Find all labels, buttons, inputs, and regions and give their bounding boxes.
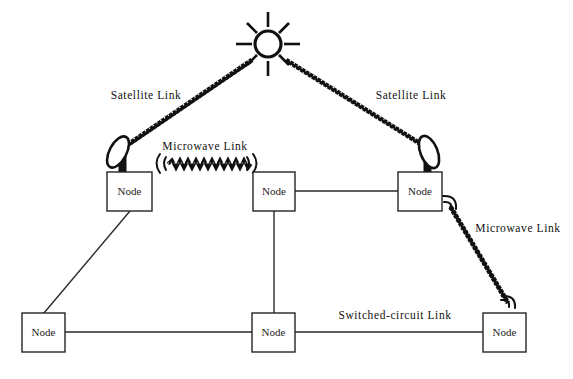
link-satellite-right xyxy=(286,58,425,149)
node-label: Node xyxy=(408,185,432,197)
node-lower-left[interactable]: Node xyxy=(22,313,65,352)
node-upper-right[interactable]: Node xyxy=(398,172,442,211)
label-microwave-link-right: Microwave Link xyxy=(475,222,560,234)
link-wire-upper-left-to-lower-left xyxy=(44,211,130,313)
node-label: Node xyxy=(493,326,517,338)
label-satellite-link-right: Satellite Link xyxy=(376,89,447,101)
link-microwave-top xyxy=(157,154,257,173)
node-label: Node xyxy=(262,326,286,338)
node-upper-middle[interactable]: Node xyxy=(253,172,295,211)
node-label: Node xyxy=(118,185,142,197)
node-label: Node xyxy=(32,326,56,338)
network-diagram: Node Node Node Node Node Node Satellite … xyxy=(0,0,573,379)
label-satellite-link-left: Satellite Link xyxy=(111,89,182,101)
diagram-canvas: Node Node Node Node Node Node Satellite … xyxy=(0,0,573,379)
label-microwave-link-top: Microwave Link xyxy=(162,140,247,152)
node-lower-right[interactable]: Node xyxy=(483,313,526,352)
node-label: Node xyxy=(262,185,286,197)
link-satellite-left xyxy=(126,58,253,149)
link-microwave-right xyxy=(443,196,515,308)
label-switched-circuit-link: Switched-circuit Link xyxy=(338,309,451,321)
dish-antenna-upper-left xyxy=(103,133,134,173)
node-upper-left[interactable]: Node xyxy=(107,172,152,211)
dish-antenna-upper-right xyxy=(415,133,443,173)
node-lower-middle[interactable]: Node xyxy=(252,313,295,352)
